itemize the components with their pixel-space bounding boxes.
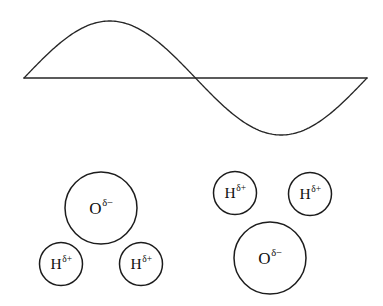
- hydrogen-circle-right-molecule-left: [214, 172, 257, 215]
- hydrogen-circle-right-molecule-right: [289, 173, 332, 216]
- hydrogen-circle-left-molecule-right: [120, 243, 163, 286]
- oxygen-circle-left-molecule: [65, 172, 137, 244]
- molecule-left-group: [40, 172, 163, 286]
- molecule-right-group: [214, 172, 332, 295]
- figure-root: Oδ− Hδ+ Hδ+ Hδ+ Hδ+ Oδ−: [0, 0, 383, 306]
- wave-group: [24, 21, 367, 135]
- oxygen-circle-right-molecule: [234, 222, 306, 294]
- hydrogen-circle-left-molecule-left: [40, 243, 83, 286]
- figure-canvas: [0, 0, 383, 306]
